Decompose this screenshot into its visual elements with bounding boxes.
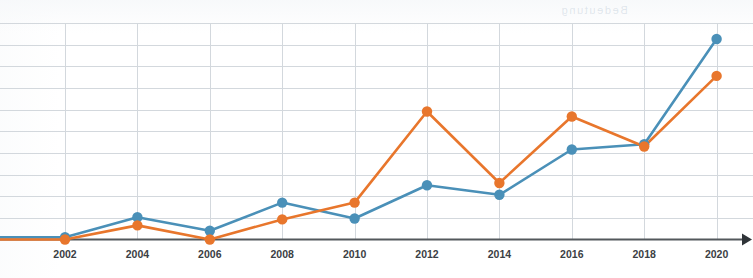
x-axis-arrowhead <box>742 234 752 246</box>
datapoint-series-orange-2008[interactable] <box>277 214 287 224</box>
datapoint-series-orange-2020[interactable] <box>711 71 721 81</box>
datapoint-series-orange-2014[interactable] <box>494 178 504 188</box>
x-axis <box>0 234 752 246</box>
x-tick-labels: 2002200420062008201020122014201620182020 <box>53 248 728 260</box>
datapoint-series-blue-2008[interactable] <box>277 197 287 207</box>
datapoint-series-orange-2010[interactable] <box>349 197 359 207</box>
x-tick-label-2010: 2010 <box>343 248 367 260</box>
datapoint-series-blue-2020[interactable] <box>711 34 721 44</box>
x-tick-label-2018: 2018 <box>633 248 657 260</box>
x-tick-label-2002: 2002 <box>53 248 77 260</box>
horizontal-gridlines <box>0 46 753 219</box>
datapoint-series-orange-2018[interactable] <box>639 141 649 151</box>
datapoint-series-blue-2016[interactable] <box>567 144 577 154</box>
datapoint-series-blue-2014[interactable] <box>494 190 504 200</box>
x-tick-label-2006: 2006 <box>198 248 222 260</box>
series-markers <box>60 34 722 245</box>
x-tick-label-2008: 2008 <box>271 248 295 260</box>
x-tick-label-2020: 2020 <box>705 248 729 260</box>
x-tick-label-2016: 2016 <box>560 248 584 260</box>
datapoint-series-orange-2016[interactable] <box>567 111 577 121</box>
series-lines <box>0 39 717 240</box>
datapoint-series-orange-2012[interactable] <box>422 106 432 116</box>
datapoint-series-orange-2002[interactable] <box>60 234 70 244</box>
x-tick-label-2004: 2004 <box>126 248 150 260</box>
chart-canvas: 2002200420062008201020122014201620182020 <box>0 0 753 278</box>
datapoint-series-orange-2006[interactable] <box>205 234 215 244</box>
datapoint-series-orange-2004[interactable] <box>132 220 142 230</box>
x-tick-label-2014: 2014 <box>488 248 512 260</box>
datapoint-series-blue-2010[interactable] <box>349 213 359 223</box>
line-chart: Bedeutung 200220042006200820102012201420… <box>0 0 753 278</box>
datapoint-series-blue-2012[interactable] <box>422 180 432 190</box>
line-series-blue <box>0 39 717 237</box>
x-tick-label-2012: 2012 <box>415 248 439 260</box>
